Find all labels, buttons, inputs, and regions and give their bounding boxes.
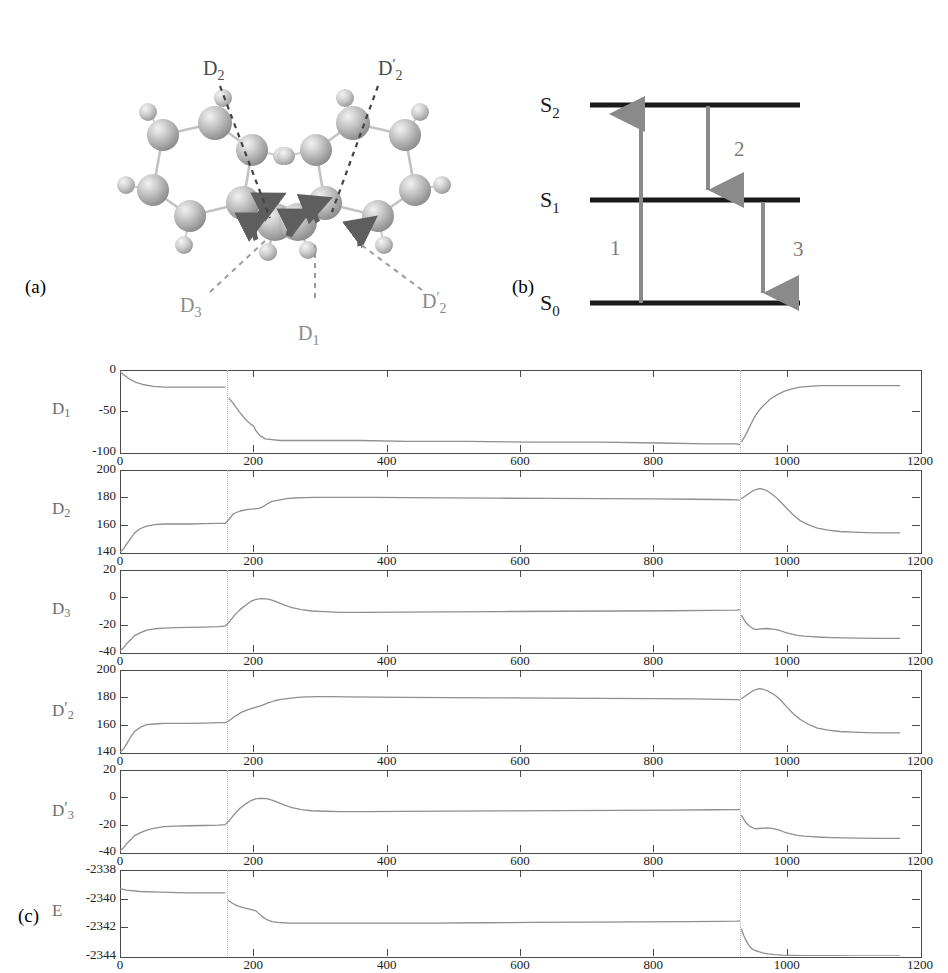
- panel-a-caption: (a): [25, 276, 46, 298]
- annotation-D2: D2: [203, 57, 224, 83]
- x-tick-label: 1200: [890, 957, 948, 973]
- x-tick-label: 600: [490, 753, 550, 769]
- panel-c-timeseries-stack: D10-50-100020040060080010001200D22001801…: [0, 368, 948, 938]
- data-curve-D3p: [120, 770, 920, 852]
- data-curve-D1: [120, 370, 920, 452]
- data-curve-E: [120, 870, 920, 956]
- transition-number-2: 2: [734, 137, 745, 161]
- y-tick-label: -20: [54, 816, 116, 832]
- x-tick-label: 800: [623, 853, 683, 869]
- y-tick-label: 0: [54, 788, 116, 804]
- x-tick-label: 1000: [757, 753, 817, 769]
- x-tick-label: 200: [223, 453, 283, 469]
- x-tick-label: 1000: [757, 653, 817, 669]
- y-tick-label: 200: [54, 461, 116, 477]
- y-tick-label: 180: [54, 688, 116, 704]
- x-tick-label: 800: [623, 653, 683, 669]
- y-tick-label: 0: [54, 588, 116, 604]
- transition-number-3: 3: [793, 237, 804, 261]
- panel-b-caption: (b): [512, 276, 534, 298]
- y-tick-label: 20: [54, 761, 116, 777]
- x-tick-label: 1200: [890, 453, 948, 469]
- data-curve-D3: [120, 570, 920, 652]
- y-tick-label: -2338: [54, 861, 116, 877]
- x-tick-label: 600: [490, 957, 550, 973]
- annotation-D1: D1: [298, 322, 319, 348]
- x-tick-label: 600: [490, 853, 550, 869]
- y-tick-label: 0: [54, 361, 116, 377]
- x-tick-label: 1200: [890, 853, 948, 869]
- direction-line-D2-prime: [332, 86, 378, 212]
- curve-segment: [741, 815, 900, 838]
- data-curve-D2p: [120, 670, 920, 752]
- chart-panel-D2: D2200180160140020040060080010001200: [0, 470, 948, 575]
- x-tick-label: 400: [357, 957, 417, 973]
- y-tick-label: -2340: [54, 890, 116, 906]
- curve-segment: [741, 489, 900, 533]
- x-tick-label: 400: [357, 853, 417, 869]
- curve-segment: [741, 386, 900, 443]
- direction-line-D3: [210, 240, 266, 292]
- chart-panel-D3p: D′3200-20-40020040060080010001200: [0, 770, 948, 875]
- x-tick-label: 1000: [757, 853, 817, 869]
- level-label-S1: S1: [540, 187, 560, 216]
- y-tick-label: 160: [54, 516, 116, 532]
- y-tick-label: 200: [54, 661, 116, 677]
- x-tick-label: 400: [357, 553, 417, 569]
- curve-segment: [741, 689, 900, 733]
- annotation-D3: D3: [180, 294, 201, 320]
- x-tick-label: 400: [357, 453, 417, 469]
- x-tick-label: 200: [223, 853, 283, 869]
- y-tick-label: 180: [54, 488, 116, 504]
- x-tick-label: 800: [623, 753, 683, 769]
- x-tick-label: 1000: [757, 553, 817, 569]
- y-tick-label: 160: [54, 716, 116, 732]
- curve-segment: [120, 889, 225, 893]
- x-tick-label: 200: [223, 653, 283, 669]
- curve-segment: [228, 900, 740, 923]
- curve-segment: [741, 615, 900, 638]
- y-tick-label: -20: [54, 616, 116, 632]
- y-tick-label: -50: [54, 402, 116, 418]
- curve-segment: [120, 599, 740, 651]
- x-tick-label: 800: [623, 553, 683, 569]
- panel-c-caption: (c): [18, 905, 39, 927]
- x-tick-label: 1000: [757, 453, 817, 469]
- molecule-svg: D2 D′2 D3 D1 D′2: [60, 40, 520, 360]
- x-tick-label: 800: [623, 957, 683, 973]
- x-tick-label: 0: [90, 957, 150, 973]
- atom-group: [117, 89, 451, 261]
- curve-segment: [120, 372, 225, 388]
- chart-panel-D3: D3200-20-40020040060080010001200: [0, 570, 948, 675]
- direction-line-D2-prime-lower: [360, 244, 422, 290]
- y-tick-label: -2342: [54, 918, 116, 934]
- annotation-D2-prime: D′2: [378, 57, 403, 83]
- data-curve-D2: [120, 470, 920, 552]
- x-tick-label: 1200: [890, 653, 948, 669]
- annotation-D2-prime-lower: D′2: [422, 290, 447, 316]
- x-tick-label: 1200: [890, 553, 948, 569]
- x-tick-label: 600: [490, 553, 550, 569]
- curve-segment: [741, 929, 900, 956]
- chart-panel-D1: D10-50-100020040060080010001200: [0, 370, 948, 475]
- x-tick-label: 400: [357, 653, 417, 669]
- x-tick-label: 200: [223, 553, 283, 569]
- transition-number-1: 1: [610, 236, 621, 260]
- chart-panel-E: E-2338-2340-2342-23440200400600800100012…: [0, 870, 948, 973]
- x-tick-label: 200: [223, 753, 283, 769]
- curve-segment: [120, 497, 740, 552]
- x-tick-label: 400: [357, 753, 417, 769]
- y-tick-label: 20: [54, 561, 116, 577]
- level-label-S2: S2: [540, 92, 560, 121]
- x-tick-label: 600: [490, 653, 550, 669]
- curve-segment: [120, 697, 740, 752]
- x-tick-label: 200: [223, 957, 283, 973]
- panel-a-molecular-structure: D2 D′2 D3 D1 D′2: [60, 40, 520, 360]
- x-tick-label: 1200: [890, 753, 948, 769]
- x-tick-label: 600: [490, 453, 550, 469]
- chart-panel-D2p: D′2200180160140020040060080010001200: [0, 670, 948, 775]
- panel-b-energy-diagram: S2 S1 S0 1 2 3: [510, 60, 890, 340]
- energy-diagram-svg: S2 S1 S0 1 2 3: [510, 60, 890, 340]
- x-tick-label: 800: [623, 453, 683, 469]
